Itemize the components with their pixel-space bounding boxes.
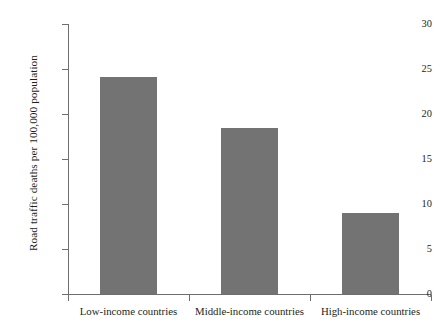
y-axis-tick xyxy=(62,24,68,25)
x-axis-category-label: Middle-income countries xyxy=(189,305,310,318)
x-axis-line xyxy=(68,294,431,295)
x-axis-tick xyxy=(431,295,432,301)
y-axis-line xyxy=(68,24,69,295)
y-axis-title: Road traffic deaths per 100,000 populati… xyxy=(26,8,40,298)
bar-chart-figure: Road traffic deaths per 100,000 populati… xyxy=(0,0,441,335)
x-axis-tick xyxy=(310,295,311,301)
y-axis-tick-label: 20 xyxy=(387,109,441,119)
x-axis-category-label: Low-income countries xyxy=(68,305,189,318)
y-axis-tick xyxy=(62,114,68,115)
y-axis-tick-label: 25 xyxy=(387,64,441,74)
bar xyxy=(100,77,157,294)
y-axis-tick-label: 15 xyxy=(387,154,441,164)
y-axis-tick-label: 10 xyxy=(387,199,441,209)
y-axis-tick xyxy=(62,69,68,70)
bar xyxy=(342,213,399,294)
y-axis-tick xyxy=(62,249,68,250)
x-axis-category-label: High-income countries xyxy=(310,305,431,318)
y-axis-tick xyxy=(62,159,68,160)
bar xyxy=(221,128,278,294)
y-axis-tick-label: 30 xyxy=(387,19,441,29)
x-axis-tick xyxy=(68,295,69,301)
x-axis-tick xyxy=(189,295,190,301)
y-axis-tick xyxy=(62,204,68,205)
